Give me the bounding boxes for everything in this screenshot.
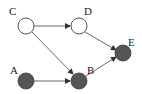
node-d-label: D [84, 5, 92, 17]
graph-diagram: C D E A B [0, 0, 142, 94]
edge-d-e [85, 32, 116, 50]
node-c-circle [18, 18, 34, 34]
node-a: A [10, 64, 34, 89]
node-b: B [71, 64, 94, 89]
node-d-circle [71, 18, 87, 34]
node-d: D [71, 5, 92, 34]
node-a-label: A [10, 64, 18, 76]
node-b-label: B [87, 64, 94, 76]
node-c: C [9, 5, 34, 34]
node-e: E [115, 36, 135, 61]
edge-c-b [32, 32, 73, 74]
node-b-circle [71, 73, 87, 89]
node-c-label: C [9, 5, 16, 17]
edges [32, 26, 116, 81]
node-e-label: E [128, 36, 135, 48]
node-a-circle [18, 73, 34, 89]
